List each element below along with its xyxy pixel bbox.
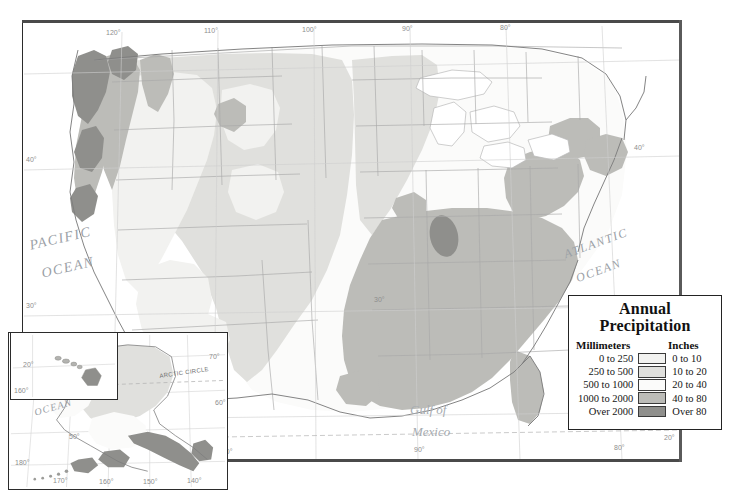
graticule-top-110: 110° (204, 27, 218, 34)
legend-inches-label: 10 to 20 (666, 366, 714, 377)
legend-color-swatch (638, 379, 666, 391)
legend-box: Annual Precipitation Millimeters Inches … (568, 295, 722, 430)
alaska-graticule-60: 60° (215, 399, 226, 406)
map-frame-top (22, 20, 682, 23)
legend-inches-label: 0 to 10 (666, 353, 714, 364)
legend-millimeters-label: 0 to 250 (576, 353, 638, 364)
alaska-graticule-170: 170° (53, 477, 67, 484)
alaska-graticule-140: 140° (187, 477, 201, 484)
gulf-of-mexico-label: Gulf of (410, 402, 446, 418)
legend-column-headers: Millimeters Inches (576, 339, 714, 351)
alaska-graticule-160: 160° (99, 478, 113, 485)
legend-color-swatch (638, 353, 666, 365)
hawaii-graticule-160: 160° (14, 387, 28, 394)
legend-inches-label: Over 80 (666, 406, 714, 417)
legend-color-swatch (638, 392, 666, 404)
graticule-top-120: 120° (106, 29, 120, 36)
alaska-graticule-150: 150° (143, 478, 157, 485)
legend-header-inches: Inches (668, 339, 714, 351)
legend-row: Over 2000Over 80 (576, 405, 714, 418)
alaska-graticule-50: 50° (69, 433, 80, 440)
legend-row: 1000 to 200040 to 80 (576, 392, 714, 405)
legend-title: Annual Precipitation (576, 301, 714, 334)
graticule-right-40: 40° (634, 144, 645, 151)
graticule-right-30: 30° (374, 296, 385, 303)
gulf-of-mexico-label-2: Mexico (412, 424, 450, 440)
hawaii-inset-panel: 20° 160° (10, 332, 118, 400)
legend-color-swatch (638, 366, 666, 378)
legend-inches-label: 40 to 80 (666, 393, 714, 404)
legend-row: 0 to 2500 to 10 (576, 352, 714, 365)
graticule-left-40: 40° (26, 156, 37, 163)
legend-class-list: 0 to 2500 to 10250 to 50010 to 20500 to … (576, 352, 714, 418)
legend-header-millimeters: Millimeters (576, 339, 638, 351)
legend-inches-label: 20 to 40 (666, 379, 714, 390)
graticule-bottom-20: 20° (664, 434, 675, 441)
legend-row: 250 to 50010 to 20 (576, 365, 714, 378)
graticule-bottom-90: 90° (414, 446, 425, 453)
precipitation-map-page: PACIFIC OCEAN ATLANTIC OCEAN Gulf of Mex… (0, 0, 735, 495)
legend-millimeters-label: 250 to 500 (576, 366, 638, 377)
graticule-bottom-80: 80° (614, 444, 625, 451)
alaska-graticule-70: 70° (209, 353, 220, 360)
legend-row: 500 to 100020 to 40 (576, 378, 714, 391)
graticule-top-80: 80° (500, 24, 511, 31)
legend-color-swatch (638, 406, 666, 418)
legend-millimeters-label: 1000 to 2000 (576, 393, 638, 404)
graticule-left-30: 30° (26, 302, 37, 309)
legend-millimeters-label: Over 2000 (576, 406, 638, 417)
hawaii-graticule-20: 20° (23, 361, 34, 368)
alaska-graticule-180: 180° (15, 459, 29, 466)
legend-millimeters-label: 500 to 1000 (576, 379, 638, 390)
graticule-top-90: 90° (402, 25, 413, 32)
graticule-top-100: 100° (302, 26, 316, 33)
